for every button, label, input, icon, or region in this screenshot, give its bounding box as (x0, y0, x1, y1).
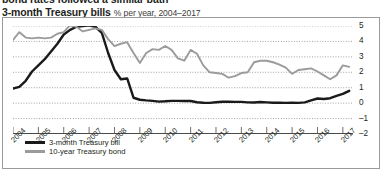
series-group (13, 26, 349, 103)
y-axis-tick-label: 1 (359, 83, 373, 92)
legend-label: 3-month Treasury bill (49, 138, 120, 147)
legend-item: 3-month Treasury bill (25, 138, 125, 147)
chart-plot-area (13, 26, 353, 134)
y-axis-tick-label: –1 (359, 114, 373, 123)
gridlines-group (13, 26, 353, 134)
chart-title-row: 3-month Treasury bills% per year, 2004–2… (2, 2, 383, 16)
y-axis-tick-label: 5 (359, 21, 373, 30)
y-axis-tick-label: 3 (359, 52, 373, 61)
y-axis-tick-label: 4 (359, 36, 373, 45)
legend-label: 10-year Treasury bond (49, 147, 125, 156)
legend-swatch-icon (25, 150, 45, 153)
y-axis-tick-label: 2 (359, 67, 373, 76)
y-axis-tick-label: 0 (359, 98, 373, 107)
figure-frame: 543210–1–2 20042005200620072008200920102… (2, 17, 380, 169)
chart-legend: 3-month Treasury bill10-year Treasury bo… (25, 138, 125, 156)
legend-swatch-icon (25, 141, 45, 144)
series-line (13, 26, 349, 103)
legend-item: 10-year Treasury bond (25, 147, 125, 156)
line-chart-svg (13, 26, 353, 134)
y-axis-tick-label: –2 (359, 129, 373, 138)
